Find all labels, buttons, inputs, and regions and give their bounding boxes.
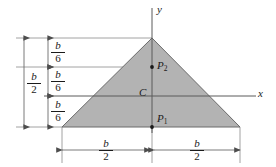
dim-base-left-denominator: 2 (99, 151, 113, 162)
dim-seg-bottom-denominator: 6 (51, 112, 65, 123)
dim-base-right-label: b 2 (190, 138, 204, 162)
dim-seg-top-numerator: b (51, 40, 65, 51)
dim-base-left-label: b 2 (99, 138, 113, 162)
dim-base-right-denominator: 2 (190, 151, 204, 162)
point-p1-subscript: 1 (164, 117, 168, 126)
point-p1-dot (150, 125, 154, 129)
point-p2-subscript: 2 (164, 64, 168, 73)
point-p1-label: P1 (157, 113, 167, 124)
dim-base-left-numerator: b (99, 138, 113, 149)
triangle-centroid-figure: y x P2 C P1 b 2 b 6 b 6 b 6 b 2 b 2 (0, 0, 276, 167)
triangle-shape (62, 38, 240, 127)
figure-canvas (0, 0, 276, 167)
dim-total-left-label: b 2 (27, 71, 41, 95)
dim-seg-top-label: b 6 (51, 40, 65, 64)
x-axis-label: x (258, 88, 263, 99)
dim-seg-mid-denominator: 6 (51, 82, 65, 93)
point-p1-letter: P (157, 112, 164, 124)
dim-base-right-numerator: b (190, 138, 204, 149)
dim-total-left-numerator: b (27, 71, 41, 82)
point-p2-dot (150, 65, 154, 69)
dim-seg-top-denominator: 6 (51, 53, 65, 64)
dim-seg-mid-label: b 6 (51, 69, 65, 93)
dim-seg-bottom-numerator: b (51, 99, 65, 110)
dim-seg-mid-numerator: b (51, 69, 65, 80)
y-axis-label: y (157, 4, 162, 15)
dim-total-left-denominator: 2 (27, 84, 41, 95)
point-p2-label: P2 (157, 60, 167, 71)
dim-seg-bottom-label: b 6 (51, 99, 65, 123)
point-c-label: C (139, 87, 146, 98)
point-p2-letter: P (157, 59, 164, 71)
